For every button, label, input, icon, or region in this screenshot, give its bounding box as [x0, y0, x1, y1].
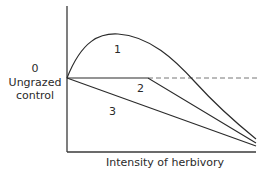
x-axis-label: Intensity of herbivory: [106, 157, 224, 169]
ungrazed-label: Ungrazed: [6, 77, 64, 89]
y-zero-label: 0: [10, 63, 60, 75]
curve-3-label: 3: [109, 106, 116, 118]
curve-3: [67, 78, 256, 146]
control-label: control: [6, 90, 64, 102]
curve-1-label: 1: [114, 44, 121, 56]
curve-2-label: 2: [137, 83, 144, 95]
